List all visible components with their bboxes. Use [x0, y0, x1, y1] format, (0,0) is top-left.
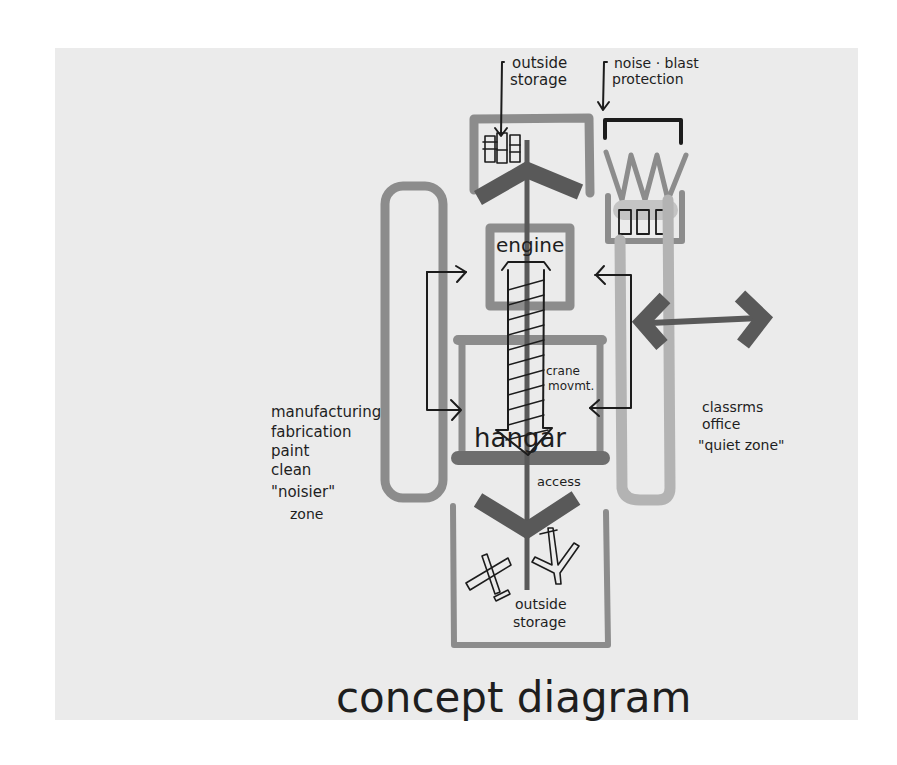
label-top-outside-storage: outside storage	[510, 54, 567, 89]
airplane-icon	[466, 554, 511, 601]
svg-text:office: office	[702, 416, 740, 432]
double-arrow	[642, 296, 763, 345]
svg-text:manufacturing: manufacturing	[271, 403, 381, 421]
containers-icon	[483, 133, 520, 163]
blast-leader-line	[603, 62, 607, 108]
svg-text:zone: zone	[290, 506, 323, 522]
diagram-title: concept diagram	[336, 673, 691, 722]
label-bottom-outside-storage: outside storage	[513, 596, 567, 630]
svg-text:outside: outside	[515, 596, 567, 612]
label-engine: engine	[496, 233, 564, 257]
svg-text:storage: storage	[510, 71, 567, 89]
svg-text:"noisier": "noisier"	[271, 483, 335, 501]
svg-text:"quiet zone": "quiet zone"	[698, 437, 784, 453]
quiet-zone-outline	[620, 200, 670, 500]
storage-leader-line	[501, 62, 504, 135]
svg-text:crane: crane	[546, 364, 580, 378]
svg-text:storage: storage	[513, 614, 566, 630]
label-noise-blast: noise · blast protection	[612, 55, 699, 87]
concept-diagram: outside storage noise · blast protection…	[0, 0, 897, 765]
svg-text:clean: clean	[271, 461, 311, 479]
label-access: access	[537, 474, 581, 489]
label-manufacturing-zone: manufacturing fabrication paint clean "n…	[271, 403, 381, 522]
manufacturing-zone-outline	[385, 186, 443, 498]
svg-text:paint: paint	[271, 442, 309, 460]
airplane-icon	[532, 528, 579, 584]
svg-text:fabrication: fabrication	[271, 423, 352, 441]
label-crane-movement: crane movmt.	[546, 364, 594, 393]
label-hangar: hangar	[474, 423, 566, 453]
svg-text:noise · blast: noise · blast	[614, 55, 699, 71]
svg-text:outside: outside	[512, 54, 567, 72]
svg-text:protection: protection	[612, 71, 684, 87]
label-quiet-zone: classrms office "quiet zone"	[698, 399, 784, 453]
svg-text:movmt.: movmt.	[548, 379, 594, 393]
svg-text:classrms: classrms	[702, 399, 763, 415]
